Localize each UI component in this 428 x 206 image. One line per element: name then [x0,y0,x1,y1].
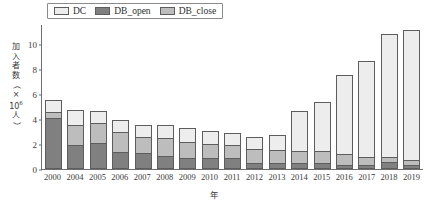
bar-segment-db_close[interactable] [224,145,241,158]
bar-segment-db_close[interactable] [157,138,174,156]
y-title-char: 入 [6,52,26,62]
bar-segment-dc[interactable] [358,61,375,157]
bar-segment-db_close[interactable] [67,125,84,146]
legend-item-db-close: DB_close [160,6,216,16]
bar-segment-db_open[interactable] [224,158,241,169]
bar-segment-dc[interactable] [246,137,263,150]
bar-segment-db_close[interactable] [112,132,129,152]
bar-segment-dc[interactable] [314,102,331,151]
bar-segment-dc[interactable] [112,120,129,132]
bar-segment-db_open[interactable] [381,162,398,169]
bar-column[interactable] [224,25,241,169]
bar-segment-dc[interactable] [45,100,62,112]
x-tick-label: 2015 [313,171,330,185]
bar-column[interactable] [67,25,84,169]
y-axis-title: 加入者数（×106人） [6,42,26,130]
bar-segment-db_close[interactable] [90,123,107,142]
chart-legend: DC DB_open DB_close [47,3,223,19]
bar-segment-db_open[interactable] [179,158,196,169]
bar-column[interactable] [135,25,152,169]
bar-segment-dc[interactable] [291,111,308,151]
bar-segment-db_open[interactable] [135,153,152,169]
bar-column[interactable] [45,25,62,169]
bar-segment-db_open[interactable] [112,152,129,170]
bar-segment-db_close[interactable] [291,151,308,164]
bar-column[interactable] [358,25,375,169]
bar-segment-db_open[interactable] [336,165,353,169]
x-tick-label: 2017 [358,171,375,185]
bar-column[interactable] [90,25,107,169]
y-title-exponent: 106 [6,99,26,111]
x-tick-label: 2016 [336,171,353,185]
bar-segment-db_open[interactable] [90,143,107,169]
bar-column[interactable] [179,25,196,169]
bar-segment-db_open[interactable] [358,165,375,169]
bar-column[interactable] [112,25,129,169]
bar-segment-db_open[interactable] [269,163,286,169]
legend-label-db-open: DB_open [114,6,150,16]
legend-swatch-db-close [160,7,175,15]
bar-segment-db_open[interactable] [202,158,219,169]
x-axis-title: 年 [0,188,428,200]
bar-segment-db_open[interactable] [157,156,174,169]
legend-label-db-close: DB_close [179,6,216,16]
legend-swatch-db-open [95,7,110,15]
x-tick-label: 2018 [381,171,398,185]
bar-column[interactable] [403,25,420,169]
bar-segment-db_open[interactable] [403,165,420,169]
bar-segment-dc[interactable] [381,34,398,157]
bar-segment-dc[interactable] [269,135,286,150]
bar-segment-dc[interactable] [224,133,241,145]
bar-segment-dc[interactable] [179,128,196,141]
legend-swatch-dc [54,7,69,15]
legend-label-dc: DC [73,6,86,16]
bar-segment-db_close[interactable] [358,157,375,165]
bar-column[interactable] [314,25,331,169]
bar-series-group [42,25,423,169]
bar-segment-dc[interactable] [90,111,107,124]
bar-segment-db_open[interactable] [314,163,331,169]
x-tick-label: 2010 [201,171,218,185]
chart-figure: DC DB_open DB_close 加入者数（×106人） 0246810 … [0,0,428,206]
bar-segment-db_close[interactable] [269,150,286,163]
bar-segment-db_close[interactable] [246,149,263,163]
x-tick-label: 2009 [179,171,196,185]
bar-segment-db_open[interactable] [246,163,263,169]
x-tick-label: 2005 [89,171,106,185]
plot-area: 0246810 [41,25,423,170]
bar-segment-db_close[interactable] [135,137,152,154]
bar-column[interactable] [336,25,353,169]
bar-column[interactable] [157,25,174,169]
bar-segment-db_close[interactable] [314,151,331,164]
x-tick-label: 2019 [403,171,420,185]
bar-column[interactable] [291,25,308,169]
bar-segment-db_close[interactable] [179,142,196,158]
bar-segment-db_close[interactable] [202,144,219,158]
x-tick-label: 2011 [224,171,241,185]
bar-segment-db_open[interactable] [45,118,62,169]
bar-segment-db_open[interactable] [291,163,308,169]
x-tick-label: 2012 [246,171,263,185]
bar-segment-dc[interactable] [403,30,420,160]
legend-item-dc: DC [54,6,86,16]
bar-segment-db_open[interactable] [67,145,84,169]
x-axis-tick-labels: 2000200420052006200720082009201020112012… [41,171,423,185]
y-title-paren: （ [11,75,21,95]
bar-column[interactable] [202,25,219,169]
bar-segment-dc[interactable] [67,110,84,125]
bar-segment-dc[interactable] [135,125,152,136]
bar-segment-db_close[interactable] [336,154,353,165]
bar-column[interactable] [269,25,286,169]
bar-column[interactable] [381,25,398,169]
y-title-char: 加 [6,42,26,52]
bar-segment-dc[interactable] [336,75,353,154]
bar-segment-dc[interactable] [157,125,174,138]
x-tick-label: 2013 [268,171,285,185]
bar-column[interactable] [246,25,263,169]
x-tick-label: 2000 [44,171,61,185]
bar-segment-dc[interactable] [202,131,219,144]
legend-item-db-open: DB_open [95,6,150,16]
x-tick-label: 2007 [134,171,151,185]
y-title-char: 者 [6,61,26,71]
x-tick-label: 2014 [291,171,308,185]
